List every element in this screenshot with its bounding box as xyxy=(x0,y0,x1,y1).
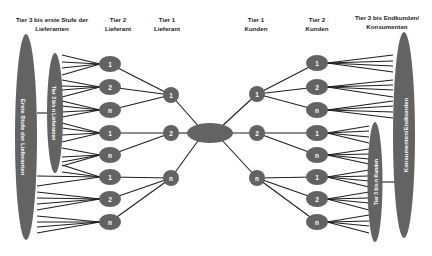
svg-text:n: n xyxy=(108,107,112,114)
tier1-customer-node: 2 xyxy=(249,125,265,141)
header-tier1-supplier-line1: Tier 1 xyxy=(159,16,176,23)
svg-text:1: 1 xyxy=(108,174,112,181)
tier2-customer-node: 1 xyxy=(306,55,328,71)
svg-text:1: 1 xyxy=(315,60,319,67)
edges-right-fans xyxy=(327,55,395,233)
tier1-supplier-node: 2 xyxy=(163,125,179,141)
svg-text:1: 1 xyxy=(315,174,319,181)
svg-text:2: 2 xyxy=(315,84,319,91)
svg-text:1: 1 xyxy=(108,61,112,68)
tier2-supplier-node: n xyxy=(99,102,121,118)
svg-text:n: n xyxy=(315,152,319,159)
focal-company-node xyxy=(187,123,233,143)
header-tier2-supplier-line1: Tier 2 xyxy=(110,16,127,23)
tier2-supplier-node: 1 xyxy=(99,169,121,185)
tier2-supplier-node: n xyxy=(99,214,121,230)
tier2-customer-node: n xyxy=(306,147,328,163)
edges-left-fans xyxy=(37,55,100,233)
label-tier3-to-n-suppliers: Tier 3 bis n Lieferanten xyxy=(51,86,57,141)
svg-text:2: 2 xyxy=(255,130,259,137)
svg-text:1: 1 xyxy=(315,130,319,137)
tier2-customer-node: 1 xyxy=(306,125,328,141)
tier1-supplier-node: 1 xyxy=(163,87,179,103)
label-consumers-endcustomers: Konsumenten/Endkunden xyxy=(403,98,409,173)
right-group-consumers-endcustomers: Konsumenten/Endkunden xyxy=(393,32,415,238)
tier2-customer-node: n xyxy=(306,102,328,118)
label-tier3-to-n-customers: Tier 3 bis n Kunden xyxy=(373,159,379,205)
svg-text:1: 1 xyxy=(255,91,259,98)
header-tier2-customers-line1: Tier 2 xyxy=(309,16,326,23)
header-tier3-suppliers-line2: Lieferanten xyxy=(35,25,69,32)
svg-text:2: 2 xyxy=(169,130,173,137)
header-tier3-customers-line1: Tier 3 bis Endkunden/ xyxy=(355,14,419,21)
tier2-supplier-node: 1 xyxy=(99,125,121,141)
tier2-customer-nodes: 1 2 n 1 n 1 2 n xyxy=(306,55,328,230)
tier2-supplier-node: n xyxy=(99,147,121,163)
tier1-customer-nodes: 1 2 n xyxy=(249,86,265,186)
right-group-tier3-to-n-customers: Tier 3 bis n Kunden xyxy=(368,122,383,242)
label-first-tier-suppliers: Erste Stufe der Lieferanten xyxy=(20,99,26,176)
header-tier1-customers-line2: Kunden xyxy=(244,25,267,32)
left-group-first-tier-suppliers: Erste Stufe der Lieferanten xyxy=(15,34,37,240)
tier1-supplier-node: n xyxy=(163,170,179,186)
svg-text:2: 2 xyxy=(108,196,112,203)
svg-text:n: n xyxy=(315,107,319,114)
header-tier2-customers-line2: Kunden xyxy=(305,25,328,32)
header-tier3-customers-line2: Konsumenten xyxy=(366,23,407,30)
tier2-customer-node: 2 xyxy=(306,191,328,207)
tier1-customer-node: n xyxy=(249,170,265,186)
header-tier3-suppliers-line1: Tier 3 bis erste Stufe der xyxy=(16,16,89,23)
supply-chain-diagram: Tier 3 bis erste Stufe der Lieferanten T… xyxy=(0,0,432,256)
svg-text:2: 2 xyxy=(315,196,319,203)
svg-text:n: n xyxy=(169,175,173,182)
svg-text:1: 1 xyxy=(108,130,112,137)
column-headers: Tier 3 bis erste Stufe der Lieferanten T… xyxy=(16,14,419,32)
tier2-customer-node: 2 xyxy=(306,79,328,95)
tier1-customer-node: 1 xyxy=(249,86,265,102)
left-group-tier3-to-n-suppliers: Tier 3 bis n Lieferanten xyxy=(47,53,63,173)
tier2-customer-node: n xyxy=(306,214,328,230)
header-tier2-supplier-line2: Lieferant xyxy=(105,25,131,32)
svg-text:2: 2 xyxy=(108,84,112,91)
header-tier1-supplier-line2: Lieferant xyxy=(154,25,180,32)
tier2-supplier-node: 1 xyxy=(99,56,121,72)
svg-text:n: n xyxy=(108,219,112,226)
svg-text:1: 1 xyxy=(169,92,173,99)
tier2-supplier-node: 2 xyxy=(99,191,121,207)
svg-text:n: n xyxy=(108,152,112,159)
svg-text:n: n xyxy=(255,175,259,182)
tier2-supplier-node: 2 xyxy=(99,79,121,95)
tier2-customer-node: 1 xyxy=(306,169,328,185)
tier2-supplier-nodes: 1 2 n 1 n 1 2 n xyxy=(99,56,121,230)
header-tier1-customers-line1: Tier 1 xyxy=(248,16,265,23)
svg-text:n: n xyxy=(315,219,319,226)
